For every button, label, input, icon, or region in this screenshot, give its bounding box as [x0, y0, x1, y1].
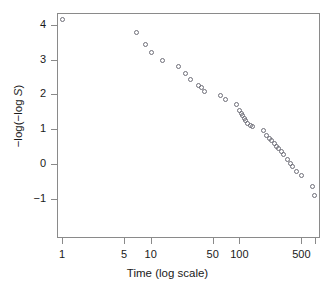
data-point-marker	[60, 17, 65, 22]
data-point-marker	[183, 71, 188, 76]
x-tick-mark	[124, 238, 125, 244]
data-point-marker	[310, 184, 315, 189]
data-point-marker	[149, 50, 154, 55]
data-point-marker	[160, 58, 165, 63]
x-tick-mark	[151, 238, 152, 244]
x-tick-mark	[239, 238, 240, 244]
data-point-marker	[234, 102, 239, 107]
data-point-marker	[134, 30, 139, 35]
data-point-marker	[312, 193, 317, 198]
x-axis-title: Time (log scale)	[0, 267, 335, 279]
data-point-marker	[294, 169, 299, 174]
x-tick-label: 1	[42, 249, 82, 260]
data-point-marker	[223, 97, 228, 102]
y-tick-label: −1	[18, 193, 46, 204]
scatter-plot-figure: −log(−log S) −101234 151050100500 Time (…	[0, 0, 335, 292]
y-tick-label: 4	[18, 19, 46, 30]
x-tick-label: 500	[281, 249, 321, 260]
data-point-marker	[143, 42, 148, 47]
data-point-marker	[281, 152, 286, 157]
plot-area-frame	[57, 13, 320, 238]
y-tick-label: 3	[18, 54, 46, 65]
x-tick-label: 100	[219, 249, 259, 260]
x-tick-mark	[301, 238, 302, 244]
data-point-marker	[299, 173, 304, 178]
x-tick-mark	[62, 238, 63, 244]
data-point-marker	[202, 89, 207, 94]
x-tick-mark	[315, 238, 316, 244]
x-tick-label: 10	[131, 249, 171, 260]
y-tick-label: 1	[18, 123, 46, 134]
y-tick-label: 2	[18, 88, 46, 99]
data-point-marker	[176, 64, 181, 69]
data-point-marker	[188, 77, 193, 82]
x-tick-mark	[213, 238, 214, 244]
y-tick-label: 0	[18, 158, 46, 169]
data-point-marker	[250, 124, 255, 129]
